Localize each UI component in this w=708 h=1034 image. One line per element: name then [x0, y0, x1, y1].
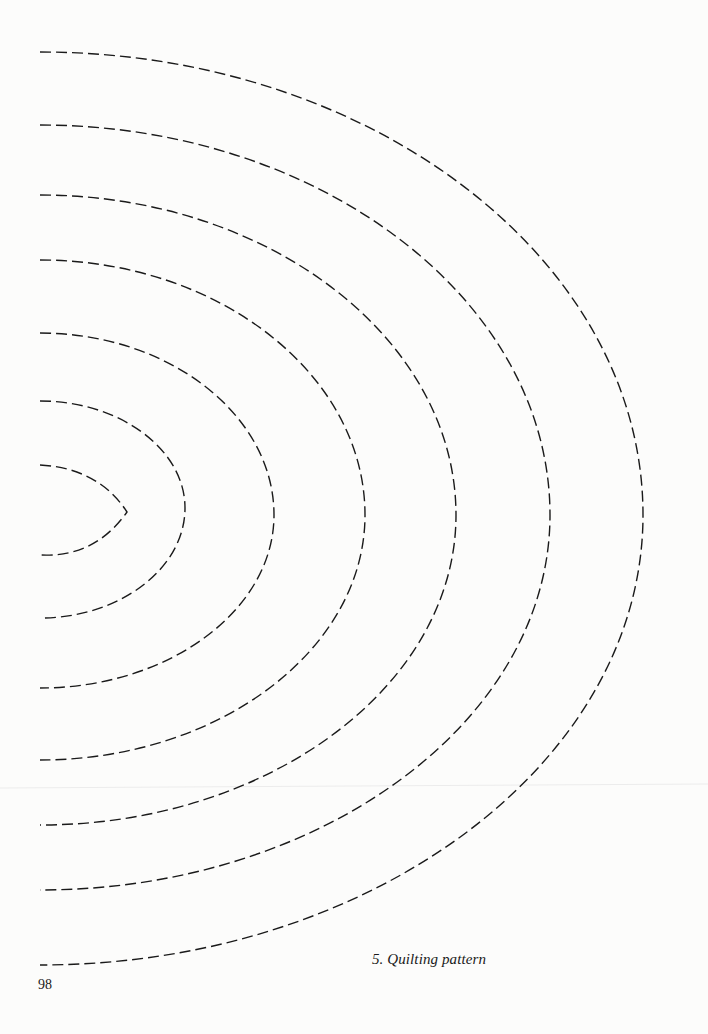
stitch-arc-7 [40, 52, 643, 965]
stitch-arc-2 [40, 401, 185, 618]
figure-caption: 5. Quilting pattern [372, 951, 486, 968]
scan-artifact-line [0, 784, 708, 788]
stitch-arc-1 [40, 465, 127, 555]
stitch-arc-5 [40, 195, 456, 825]
stitch-arcs [40, 52, 643, 965]
stitch-arc-6 [40, 125, 550, 890]
book-page: 5. Quilting pattern 98 [0, 0, 708, 1034]
stitch-arc-3 [40, 333, 274, 688]
quilting-pattern-diagram [0, 0, 708, 1034]
page-number: 98 [38, 977, 52, 993]
stitch-arc-4 [40, 260, 365, 760]
